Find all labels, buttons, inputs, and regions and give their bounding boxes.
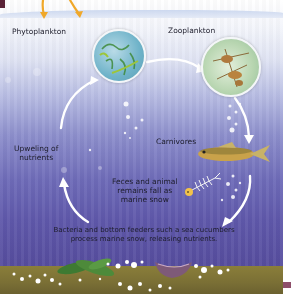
ocean-scene: Phytoplankton Zooplankton Carnivores Fec… (0, 0, 283, 294)
nutrient-particles-icon (13, 260, 230, 292)
seafloor-graphics (0, 0, 283, 294)
sea-cucumber-purple-icon (155, 262, 192, 278)
page-edge-accent (283, 282, 291, 288)
sea-cucumber-green-icon (56, 256, 115, 279)
